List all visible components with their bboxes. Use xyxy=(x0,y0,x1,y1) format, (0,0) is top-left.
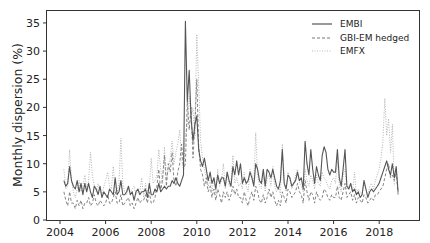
x-tick-label: 2010 xyxy=(183,226,211,239)
y-tick-label: 30 xyxy=(26,45,40,58)
x-tick-label: 2012 xyxy=(228,226,256,239)
y-tick-label: 35 xyxy=(26,17,40,30)
series-emfx xyxy=(64,34,394,197)
line-chart: 20042006200820102012201420162018 0510152… xyxy=(0,0,430,243)
legend-label-emfx: EMFX xyxy=(340,46,365,56)
y-tick-label: 25 xyxy=(26,73,40,86)
y-tick-label: 15 xyxy=(26,130,40,143)
y-tick-label: 5 xyxy=(33,186,40,199)
x-tick-label: 2014 xyxy=(274,226,302,239)
x-tick-label: 2016 xyxy=(320,226,348,239)
x-axis: 20042006200820102012201420162018 xyxy=(46,221,393,240)
x-tick-label: 2018 xyxy=(365,226,393,239)
y-tick-label: 10 xyxy=(26,158,40,171)
legend-label-gbi-em: GBI-EM hedged xyxy=(340,33,409,43)
legend: EMBI GBI-EM hedged EMFX xyxy=(312,19,409,56)
legend-label-embi: EMBI xyxy=(340,19,362,29)
y-axis-label: Monthly dispersion (%) xyxy=(10,43,25,187)
x-tick-label: 2008 xyxy=(137,226,165,239)
y-tick-label: 0 xyxy=(33,214,40,227)
y-tick-label: 20 xyxy=(26,101,40,114)
y-axis: 05101520253035 xyxy=(26,17,47,227)
x-tick-label: 2004 xyxy=(46,226,74,239)
x-tick-label: 2006 xyxy=(92,226,120,239)
